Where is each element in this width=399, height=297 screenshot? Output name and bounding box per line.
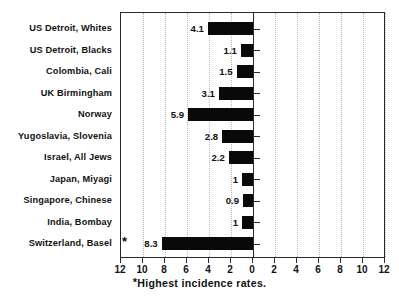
category-label: Singapore, Chinese <box>0 195 112 205</box>
row-tick <box>253 50 260 51</box>
gridline <box>143 13 145 257</box>
bar-value-label: 0.9 <box>183 194 239 207</box>
row-tick <box>253 115 260 116</box>
x-axis-tick <box>384 258 385 263</box>
x-axis-tick <box>274 258 275 263</box>
chart-footnote: *Highest incidence rates. <box>0 276 399 289</box>
category-label: US Detroit, Whites <box>0 23 112 33</box>
x-axis-tick <box>208 258 209 263</box>
highest-incidence-asterisk-icon: * <box>122 235 127 248</box>
bar-value-label: 8.3 <box>102 237 158 250</box>
x-axis-tick <box>252 258 253 263</box>
x-axis-tick <box>142 258 143 263</box>
x-axis-tick <box>318 258 319 263</box>
bar <box>242 216 253 229</box>
category-label: Colombia, Cali <box>0 66 112 76</box>
row-tick <box>253 222 260 223</box>
row-tick <box>253 244 260 245</box>
bar <box>162 237 253 250</box>
category-label: Yugoslavia, Slovenia <box>0 131 112 141</box>
gridline <box>341 13 343 257</box>
category-label: Israel, All Jews <box>0 152 112 162</box>
bar <box>222 130 253 143</box>
row-tick <box>253 72 260 73</box>
category-label: India, Bombay <box>0 217 112 227</box>
gridline <box>319 13 321 257</box>
bar <box>188 108 253 121</box>
gridline <box>363 13 365 257</box>
bar-value-label: 4.1 <box>148 22 204 35</box>
bar-value-label: 2.8 <box>162 130 218 143</box>
x-axis-tick <box>120 258 121 263</box>
x-axis-tick <box>340 258 341 263</box>
bar <box>219 87 253 100</box>
category-label: Switzerland, Basel <box>0 238 112 248</box>
category-label: UK Birmingham <box>0 88 112 98</box>
bar-value-label: 3.1 <box>159 87 215 100</box>
plot-inner: 4.11.11.53.15.92.82.210.918.3 <box>121 13 384 257</box>
x-axis-tick <box>164 258 165 263</box>
row-tick <box>253 201 260 202</box>
row-tick <box>253 136 260 137</box>
bar <box>208 22 253 35</box>
row-tick <box>253 179 260 180</box>
gridline <box>297 13 299 257</box>
gridline <box>385 13 387 257</box>
category-label: US Detroit, Blacks <box>0 45 112 55</box>
category-axis-labels: US Detroit, WhitesUS Detroit, BlacksColo… <box>0 12 112 258</box>
row-tick <box>253 158 260 159</box>
x-axis-tick <box>230 258 231 263</box>
bar <box>229 151 253 164</box>
footnote-text: Highest incidence rates. <box>137 277 266 289</box>
gridline <box>275 13 277 257</box>
bar-value-label: 2.2 <box>169 151 225 164</box>
row-tick <box>253 93 260 94</box>
category-label: Norway <box>0 109 112 119</box>
bar <box>241 44 253 57</box>
bar-value-label: 1.1 <box>181 44 237 57</box>
x-axis-tick <box>296 258 297 263</box>
bar-value-label: 1.5 <box>177 65 233 78</box>
bar-chart: US Detroit, WhitesUS Detroit, BlacksColo… <box>0 0 399 297</box>
plot-area: 4.11.11.53.15.92.82.210.918.3 <box>120 12 385 258</box>
x-axis-tick <box>362 258 363 263</box>
bar-value-label: 1 <box>182 173 238 186</box>
bar-value-label: 5.9 <box>128 108 184 121</box>
row-tick <box>253 29 260 30</box>
category-label: Japan, Miyagi <box>0 174 112 184</box>
x-axis-tick <box>186 258 187 263</box>
bar <box>243 194 253 207</box>
bar <box>242 173 253 186</box>
x-axis-tick-label: 12 <box>107 264 133 275</box>
bar-value-label: 1 <box>182 216 238 229</box>
bar <box>237 65 254 78</box>
